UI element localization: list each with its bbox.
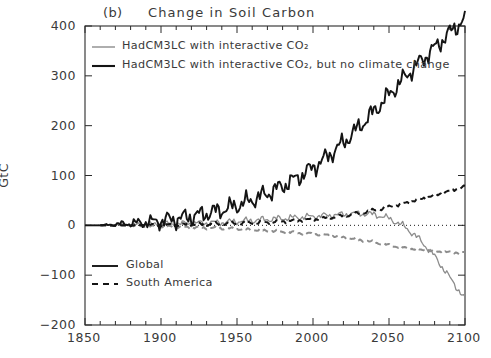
y-tick-label-400: 400 xyxy=(28,18,76,33)
y-tick-label-0: 0 xyxy=(28,217,76,232)
figure-panel: (b) Change in Soil Carbon GtC 1850190019… xyxy=(0,0,491,358)
y-tick-label--200: −200 xyxy=(28,317,76,332)
legend-bottom-label-1: South America xyxy=(126,276,213,289)
legend-top-label-1: HadCM3LC with interactive CO₂, but no cl… xyxy=(122,58,450,71)
legend-bottom-label-0: Global xyxy=(126,258,164,271)
legend-top xyxy=(92,47,115,66)
series-line-1 xyxy=(100,225,465,254)
data-series-group xyxy=(85,11,465,297)
x-tick-label-1850: 1850 xyxy=(67,330,101,345)
y-tick-label-200: 200 xyxy=(28,118,76,133)
legend-bottom xyxy=(92,266,118,284)
y-tick-label--100: −100 xyxy=(28,267,76,282)
y-axis-label: GtC xyxy=(0,163,11,188)
x-tick-label-2100: 2100 xyxy=(447,330,481,345)
x-tick-label-2050: 2050 xyxy=(371,330,405,345)
chart-title: Change in Soil Carbon xyxy=(148,5,315,20)
panel-letter: (b) xyxy=(103,5,123,20)
x-tick-label-1950: 1950 xyxy=(219,330,253,345)
x-tick-label-2000: 2000 xyxy=(295,330,329,345)
x-tick-label-1900: 1900 xyxy=(143,330,177,345)
legend-top-label-0: HadCM3LC with interactive CO₂ xyxy=(122,39,309,52)
y-tick-label-300: 300 xyxy=(28,68,76,83)
y-tick-label-100: 100 xyxy=(28,168,76,183)
